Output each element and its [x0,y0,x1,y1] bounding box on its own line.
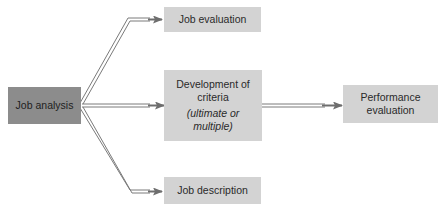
node-performance-evaluation: Performance evaluation [343,85,438,123]
node-job-analysis: Job analysis [8,87,81,124]
arrow-to-development-of-criteria [82,104,150,107]
arrow-to-performance-evaluation [262,104,325,107]
arrow-to-job-evaluation [80,18,150,104]
node-job-description: Job description [164,177,261,204]
node-label-line1: Development of [176,78,250,91]
node-label-line4: multiple) [193,120,233,133]
node-label: Job analysis [16,99,74,112]
node-label: Job evaluation [179,13,247,26]
node-label-line1: Performance [360,91,420,104]
node-label-line2: criteria [197,91,229,104]
node-development-of-criteria: Development of criteria (ultimate or mul… [164,70,262,141]
node-label-line2: evaluation [367,104,415,117]
arrow-to-job-description [80,107,150,193]
node-label: Job description [177,184,248,197]
node-job-evaluation: Job evaluation [164,7,261,32]
node-label-line3: (ultimate or [187,107,240,120]
